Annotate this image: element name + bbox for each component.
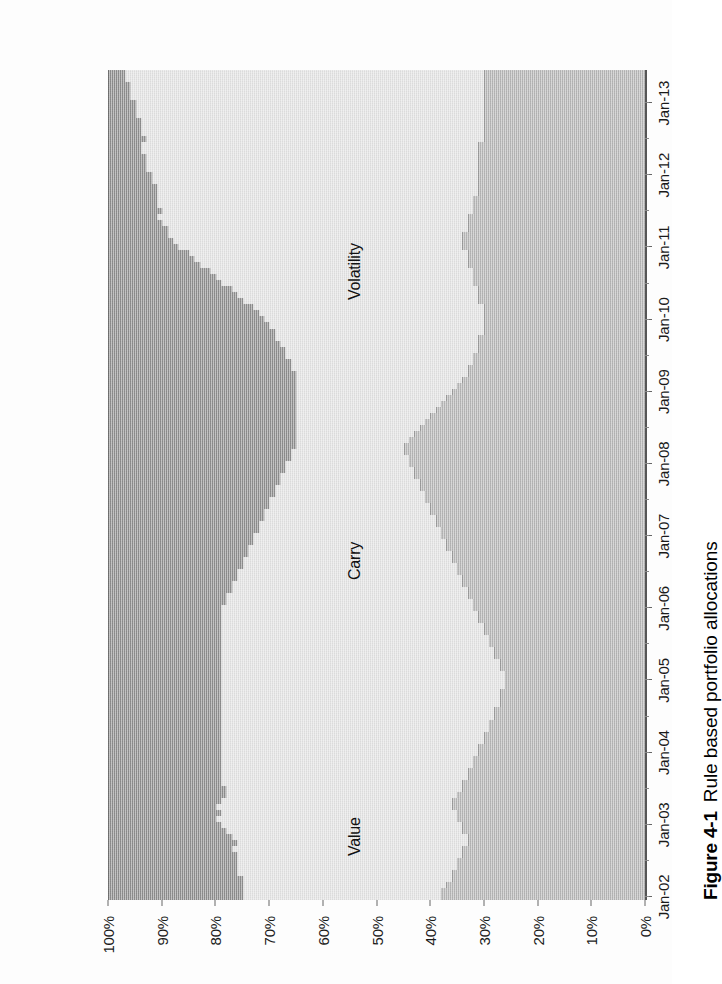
bar-segment-volatility xyxy=(414,473,645,479)
bar-segment-volatility xyxy=(484,112,645,118)
y-tick-label: 80% xyxy=(207,916,224,945)
bar-column xyxy=(108,256,645,262)
bar-segment-volatility xyxy=(478,750,645,756)
bar-column xyxy=(108,316,645,322)
bar-column xyxy=(108,443,645,449)
bar-column xyxy=(108,190,645,196)
bar-column xyxy=(108,774,645,780)
bar-segment-volatility xyxy=(462,581,645,587)
bar-column xyxy=(108,822,645,828)
bar-column xyxy=(108,70,645,76)
x-axis-ticks xyxy=(645,70,652,900)
bar-segment-volatility xyxy=(500,665,645,671)
x-minor-tick-mark xyxy=(645,391,649,392)
bar-segment-volatility xyxy=(452,876,645,882)
bar-column xyxy=(108,834,645,840)
bar-segment-volatility xyxy=(473,280,645,286)
bar-column xyxy=(108,768,645,774)
bar-segment-volatility xyxy=(478,744,645,750)
bar-segment-volatility xyxy=(473,359,645,365)
y-tick-mark xyxy=(430,900,431,906)
bar-segment-volatility xyxy=(462,828,645,834)
bar-column xyxy=(108,864,645,870)
bar-segment-value xyxy=(108,268,210,274)
bar-column xyxy=(108,178,645,184)
x-minor-tick-mark xyxy=(645,607,649,608)
bar-segment-carry xyxy=(285,461,409,467)
bar-segment-value xyxy=(108,557,243,563)
x-tick-label: Jan-10 xyxy=(655,297,672,342)
bar-segment-value xyxy=(108,659,221,665)
bar-segment-value xyxy=(108,786,226,792)
bar-segment-value xyxy=(108,184,157,190)
bar-segment-volatility xyxy=(462,244,645,250)
bar-segment-carry xyxy=(221,701,500,707)
y-tick-label: 100% xyxy=(100,916,117,954)
bar-segment-value xyxy=(108,611,221,617)
bar-segment-carry xyxy=(216,816,457,822)
bar-segment-value xyxy=(108,280,221,286)
bar-column xyxy=(108,377,645,383)
bar-segment-value xyxy=(108,76,125,82)
bar-column xyxy=(108,455,645,461)
bar-column xyxy=(108,154,645,160)
bar-segment-carry xyxy=(168,232,463,238)
bar-segment-carry xyxy=(221,653,494,659)
bar-segment-carry xyxy=(157,190,478,196)
bar-column xyxy=(108,738,645,744)
bar-segment-value xyxy=(108,310,259,316)
bar-segment-carry xyxy=(226,792,457,798)
bar-segment-carry xyxy=(232,581,463,587)
x-minor-tick-mark xyxy=(645,174,649,175)
bar-segment-carry xyxy=(157,196,473,202)
bar-column xyxy=(108,762,645,768)
bar-segment-carry xyxy=(264,316,484,322)
bar-segment-value xyxy=(108,383,296,389)
bar-segment-carry xyxy=(173,238,462,244)
bar-segment-value xyxy=(108,413,296,419)
bar-segment-volatility xyxy=(457,864,645,870)
y-tick-label: 0% xyxy=(637,916,654,937)
bar-segment-volatility xyxy=(478,190,645,196)
bar-column xyxy=(108,665,645,671)
bar-segment-volatility xyxy=(462,238,645,244)
bar-segment-volatility xyxy=(473,605,645,611)
bar-segment-carry xyxy=(141,124,484,130)
bar-segment-carry xyxy=(253,533,441,539)
x-tick-label: Jan-08 xyxy=(655,442,672,487)
bar-segment-carry xyxy=(291,455,409,461)
bar-segment-value xyxy=(108,720,221,726)
bar-column xyxy=(108,780,645,786)
x-minor-tick-mark xyxy=(645,679,649,680)
bar-segment-volatility xyxy=(468,250,645,256)
bar-segment-carry xyxy=(157,184,478,190)
bar-segment-value xyxy=(108,858,237,864)
bar-segment-carry xyxy=(264,509,431,515)
bar-column xyxy=(108,557,645,563)
bar-segment-volatility xyxy=(441,894,645,900)
bar-segment-volatility xyxy=(478,292,645,298)
bar-segment-value xyxy=(108,798,221,804)
y-tick-mark xyxy=(537,900,538,906)
bar-column xyxy=(108,792,645,798)
bar-segment-value xyxy=(108,708,221,714)
bar-segment-value xyxy=(108,232,168,238)
bar-column xyxy=(108,359,645,365)
bar-segment-value xyxy=(108,527,259,533)
x-minor-tick-mark xyxy=(645,716,649,717)
bar-segment-carry xyxy=(291,365,468,371)
bar-segment-carry xyxy=(296,377,463,383)
bar-segment-volatility xyxy=(441,533,645,539)
series-label-volatility: Volatility xyxy=(346,243,364,300)
bar-column xyxy=(108,310,645,316)
bar-column xyxy=(108,383,645,389)
bar-segment-volatility xyxy=(446,395,645,401)
bar-segment-value xyxy=(108,509,264,515)
bar-segment-volatility xyxy=(494,647,645,653)
bar-column xyxy=(108,419,645,425)
bar-segment-carry xyxy=(146,160,478,166)
bar-segment-volatility xyxy=(409,437,645,443)
bar-segment-carry xyxy=(259,527,442,533)
bar-segment-volatility xyxy=(441,888,645,894)
